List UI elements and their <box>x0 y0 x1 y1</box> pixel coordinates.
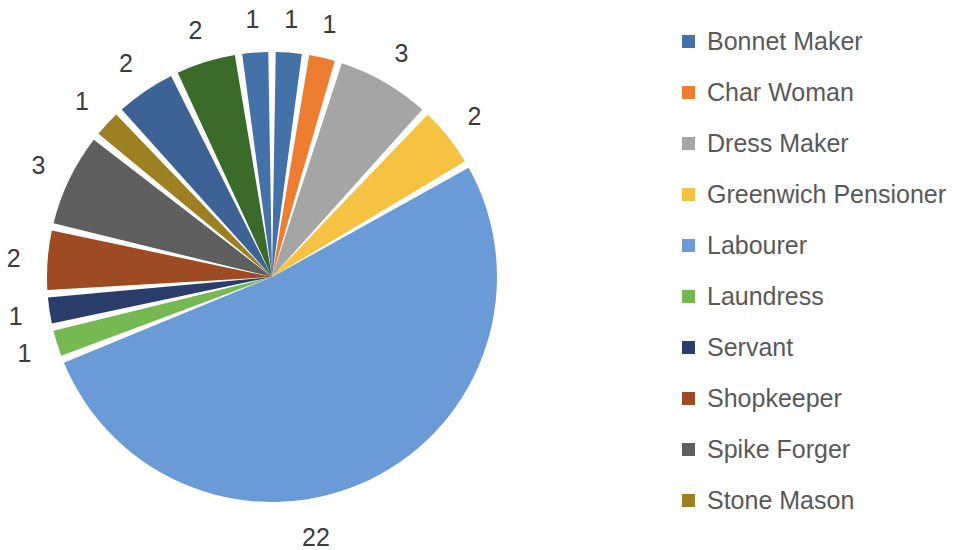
legend-item[interactable]: Servant <box>676 322 978 373</box>
legend-item-label: Labourer <box>707 233 807 258</box>
legend-item-label: Shopkeeper <box>707 386 842 411</box>
pie-data-label: 1 <box>9 303 23 328</box>
pie-slice-group <box>47 52 497 502</box>
legend-item-label: Stone Mason <box>707 488 854 513</box>
legend-item[interactable]: Dress Maker <box>676 118 978 169</box>
pie-data-label: 22 <box>302 525 330 550</box>
legend-swatch-icon <box>682 137 695 150</box>
legend-swatch-icon <box>682 341 695 354</box>
legend-swatch-icon <box>682 392 695 405</box>
pie-svg <box>0 0 660 545</box>
pie-data-label: 1 <box>75 88 89 113</box>
pie-data-label: 2 <box>7 245 21 270</box>
legend-swatch-icon <box>682 443 695 456</box>
pie-data-label: 1 <box>17 341 31 366</box>
legend-item-label: Servant <box>707 335 793 360</box>
pie-plot-area[interactable]: 11322211231221 <box>0 0 660 545</box>
legend-item[interactable]: Labourer <box>676 220 978 271</box>
legend-swatch-icon <box>682 188 695 201</box>
legend-swatch-icon <box>682 494 695 507</box>
legend-item-label: Bonnet Maker <box>707 29 863 54</box>
legend-item[interactable]: Bonnet Maker <box>676 16 978 67</box>
legend-item-label: Spike Forger <box>707 437 850 462</box>
pie-data-label: 2 <box>467 103 481 128</box>
legend-item[interactable]: Char Woman <box>676 67 978 118</box>
legend-item[interactable]: Shopkeeper <box>676 373 978 424</box>
legend-item-label: Char Woman <box>707 80 854 105</box>
legend-item[interactable]: Stone Mason <box>676 475 978 526</box>
legend: Bonnet MakerChar WomanDress MakerGreenwi… <box>676 16 978 545</box>
legend-item-label: Greenwich Pensioner <box>707 182 946 207</box>
pie-data-label: 1 <box>284 6 298 31</box>
legend-item[interactable]: Spike Forger <box>676 424 978 475</box>
legend-swatch-icon <box>682 35 695 48</box>
pie-data-label: 3 <box>394 40 408 65</box>
pie-data-label: 1 <box>246 6 260 31</box>
legend-item[interactable]: Greenwich Pensioner <box>676 169 978 220</box>
legend-swatch-icon <box>682 239 695 252</box>
pie-data-label: 2 <box>119 51 133 76</box>
pie-data-label: 3 <box>32 152 46 177</box>
pie-data-label: 1 <box>323 12 337 37</box>
pie-data-label: 2 <box>189 17 203 42</box>
legend-swatch-icon <box>682 86 695 99</box>
legend-item-label: Laundress <box>707 284 824 309</box>
legend-swatch-icon <box>682 290 695 303</box>
legend-item-label: Dress Maker <box>707 131 849 156</box>
legend-item[interactable]: Laundress <box>676 271 978 322</box>
